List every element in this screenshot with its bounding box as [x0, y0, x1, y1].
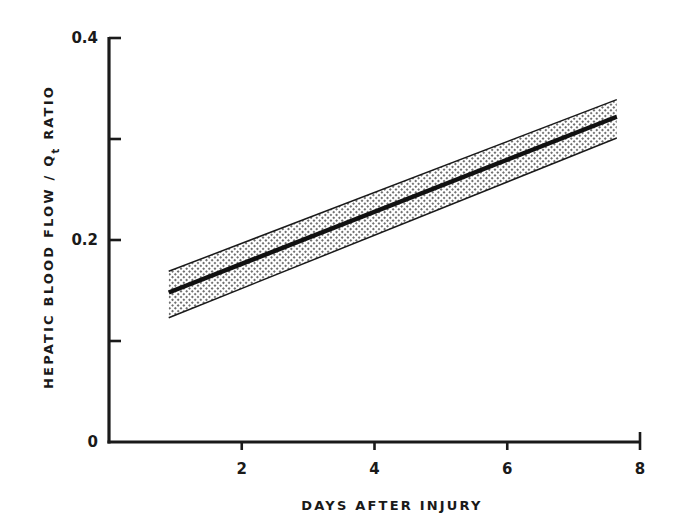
confidence-band	[169, 100, 617, 318]
x-tick-label: 8	[635, 460, 645, 478]
mean-regression-line	[169, 117, 617, 293]
y-axis-title-main: HEPATIC BLOOD FLOW / Q	[41, 154, 56, 389]
x-ticks: 2468	[237, 432, 646, 478]
y-tick-label: 0.2	[71, 231, 98, 249]
lower-confidence-line	[169, 138, 617, 318]
y-ticks: 00.20.4	[71, 29, 121, 451]
y-axis-title: HEPATIC BLOOD FLOW / Qt RATIO	[41, 85, 61, 389]
y-axis: 00.20.4	[71, 29, 121, 451]
chart: 00.20.4 2468 DAYS AFTER INJURY HEPATIC B…	[0, 0, 680, 532]
x-axis-title: DAYS AFTER INJURY	[301, 498, 482, 513]
x-axis: 2468	[108, 432, 646, 478]
plot-area	[169, 100, 617, 318]
y-axis-title-subscript: t	[50, 147, 61, 154]
x-tick-label: 6	[502, 460, 512, 478]
y-tick-label: 0.4	[71, 29, 98, 47]
x-tick-label: 4	[369, 460, 379, 478]
x-tick-label: 2	[237, 460, 247, 478]
y-axis-title-end: RATIO	[41, 85, 56, 147]
y-tick-label: 0	[88, 433, 98, 451]
upper-confidence-line	[169, 100, 617, 272]
